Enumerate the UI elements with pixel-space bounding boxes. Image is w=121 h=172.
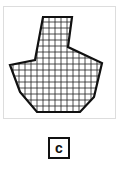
figure-label: c [48, 137, 70, 159]
